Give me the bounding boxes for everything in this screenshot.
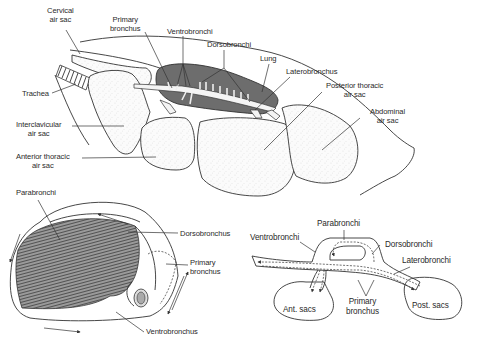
label-primary-bronchus-cutaway: Primary bronchus [190, 258, 220, 276]
label-ventrobronchi-schematic: Ventrobronchi [250, 233, 299, 243]
ventrobronchus-coil [127, 282, 148, 307]
label-line: Primary [346, 297, 379, 307]
label-ventrobronchi-top: Ventrobronchi [167, 27, 213, 36]
label-laterobronchi-schematic: Laterobronchi [402, 256, 451, 266]
label-line: air sac [326, 90, 383, 99]
label-dorsobronchi-top: Dorsobronchi [207, 40, 251, 49]
label-posterior-thoracic-air-sac: Posterior thoracic air sac [326, 81, 383, 99]
label-post-sacs: Post. sacs [412, 301, 449, 311]
label-line: air sac [16, 161, 70, 170]
trachea [56, 65, 90, 90]
label-laterobronchus: Laterobronchus [286, 67, 337, 76]
label-line: air sac [16, 129, 61, 138]
top-panel-lateral-view [52, 30, 414, 196]
label-interclavicular-air-sac: Interclavicular air sac [16, 120, 61, 138]
label-line: bronchus [110, 24, 140, 33]
label-ant-sacs: Ant. sacs [283, 305, 316, 315]
label-line: Primary [110, 15, 140, 24]
label-line: Abdominal [370, 107, 405, 116]
label-line: air sac [47, 15, 74, 24]
label-line: Anterior thoracic [16, 152, 70, 161]
label-line: Interclavicular [16, 120, 61, 129]
label-cervical-air-sac: Cervical air sac [47, 6, 74, 24]
label-parabronchi-schematic: Parabronchi [317, 219, 360, 229]
label-line: Primary [190, 258, 220, 267]
posterior-thoracic-air-sac [197, 118, 296, 196]
label-abdominal-air-sac: Abdominal air sac [370, 107, 405, 125]
post-sacs [404, 277, 462, 319]
label-primary-bronchus-schematic: Primary bronchus [346, 297, 379, 317]
parabronchi-mass [16, 219, 139, 309]
label-trachea: Trachea [22, 89, 49, 98]
anterior-thoracic-air-sac [141, 117, 195, 170]
bottom-left-panel-lung-cutaway [10, 200, 188, 332]
label-line: air sac [370, 116, 405, 125]
label-lung: Lung [260, 54, 277, 63]
label-primary-bronchus-top: Primary bronchus [110, 15, 140, 33]
label-line: Cervical [47, 6, 74, 15]
label-parabronchi-cutaway: Parabronchi [16, 188, 56, 197]
label-line: Posterior thoracic [326, 81, 383, 90]
label-anterior-thoracic-air-sac: Anterior thoracic air sac [16, 152, 70, 170]
label-line: bronchus [190, 267, 220, 276]
label-dorsobronchi-schematic: Dorsobronchi [385, 240, 433, 250]
avian-respiratory-diagram [0, 0, 478, 342]
label-line: bronchus [346, 307, 379, 317]
label-ventrobronchus: Ventrobronchus [146, 327, 198, 336]
label-dorsobronchus: Dorsobronchus [180, 229, 230, 238]
